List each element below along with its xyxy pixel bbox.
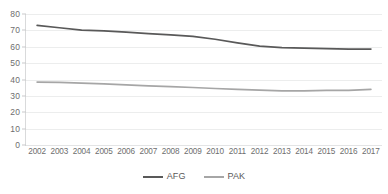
- chart-legend: AFGPAK: [0, 172, 388, 181]
- x-axis-tick-label: 2014: [295, 148, 313, 156]
- y-axis-tick-label: 70: [10, 26, 20, 35]
- y-axis-tick-labels: 01020304050607080: [0, 14, 24, 145]
- y-axis-tick: [22, 63, 26, 64]
- legend-line-swatch: [204, 176, 224, 178]
- legend-item-pak[interactable]: PAK: [204, 172, 246, 181]
- y-axis-tick-label: 30: [10, 92, 20, 101]
- x-axis-tick-label: 2005: [95, 148, 113, 156]
- y-axis-tick-label: 40: [10, 75, 20, 84]
- y-axis-tick: [22, 79, 26, 80]
- line-chart: 01020304050607080 2002200320042005200620…: [0, 0, 388, 194]
- x-axis-tick-label: 2016: [340, 148, 358, 156]
- x-axis-tick-label: 2002: [28, 148, 46, 156]
- x-axis-tick-label: 2010: [206, 148, 224, 156]
- x-axis-tick-label: 2011: [229, 148, 246, 156]
- y-axis-tick: [22, 30, 26, 31]
- y-axis-tick-label: 80: [10, 10, 20, 19]
- legend-label: AFG: [167, 172, 186, 181]
- y-axis-tick-label: 60: [10, 43, 20, 52]
- legend-line-swatch: [143, 176, 163, 178]
- legend-item-afg[interactable]: AFG: [143, 172, 186, 181]
- x-axis-tick-label: 2009: [184, 148, 202, 156]
- x-axis-tick-label: 2006: [117, 148, 135, 156]
- y-axis-tick-label: 10: [10, 124, 20, 133]
- y-axis-tick: [22, 46, 26, 47]
- x-axis-tick-label: 2007: [139, 148, 157, 156]
- y-axis-tick: [22, 95, 26, 96]
- x-axis-tick-label: 2012: [251, 148, 269, 156]
- x-axis-tick-label: 2003: [50, 148, 68, 156]
- series-line-afg: [37, 25, 371, 49]
- y-axis-tick-label: 50: [10, 59, 20, 68]
- plot-area: [26, 14, 382, 145]
- x-axis-tick-labels: 2002200320042005200620072008200920102011…: [26, 148, 382, 162]
- y-axis-tick-label: 20: [10, 108, 20, 117]
- series-line-pak: [37, 82, 371, 91]
- x-axis-tick-label: 2015: [317, 148, 335, 156]
- x-axis-tick-label: 2017: [362, 148, 380, 156]
- y-axis-tick: [22, 128, 26, 129]
- series-container: [26, 14, 382, 145]
- x-axis-tick-label: 2004: [73, 148, 91, 156]
- y-axis-tick: [22, 112, 26, 113]
- y-axis-tick: [22, 14, 26, 15]
- y-axis-tick: [22, 145, 26, 146]
- x-axis-tick-label: 2013: [273, 148, 291, 156]
- legend-label: PAK: [228, 172, 246, 181]
- y-axis-tick-label: 0: [15, 141, 20, 150]
- x-axis-tick-label: 2008: [162, 148, 180, 156]
- gridline: [26, 145, 382, 146]
